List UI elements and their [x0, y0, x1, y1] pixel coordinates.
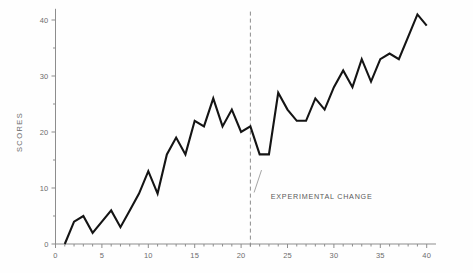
chart-container: 010203040SCORES 0510152025303540 EXPERIM… [0, 0, 473, 273]
annotation-leader-line [254, 170, 261, 192]
y-axis: 010203040SCORES [15, 9, 56, 249]
x-tick-label: 20 [237, 251, 246, 260]
y-tick-label: 40 [40, 16, 49, 25]
x-tick-label: 15 [190, 251, 199, 260]
data-series-line [65, 14, 427, 244]
x-tick-label: 35 [376, 251, 385, 260]
x-tick-label: 40 [422, 251, 431, 260]
series-polyline [65, 14, 427, 244]
x-tick-label: 25 [283, 251, 292, 260]
x-tick-label: 30 [330, 251, 339, 260]
annotation-layer: EXPERIMENTAL CHANGE [254, 170, 372, 201]
y-axis-title: SCORES [15, 112, 24, 152]
annotation-label-experimental-change: EXPERIMENTAL CHANGE [271, 192, 373, 201]
y-tick-label: 0 [44, 240, 48, 249]
y-tick-label: 10 [40, 184, 49, 193]
x-tick-label: 5 [100, 251, 104, 260]
line-chart-plot: 010203040SCORES 0510152025303540 EXPERIM… [0, 0, 473, 273]
y-tick-label: 30 [40, 72, 49, 81]
x-axis: 0510152025303540 [53, 244, 436, 260]
x-tick-label: 10 [144, 251, 153, 260]
x-tick-label: 0 [53, 251, 57, 260]
y-tick-label: 20 [40, 128, 49, 137]
